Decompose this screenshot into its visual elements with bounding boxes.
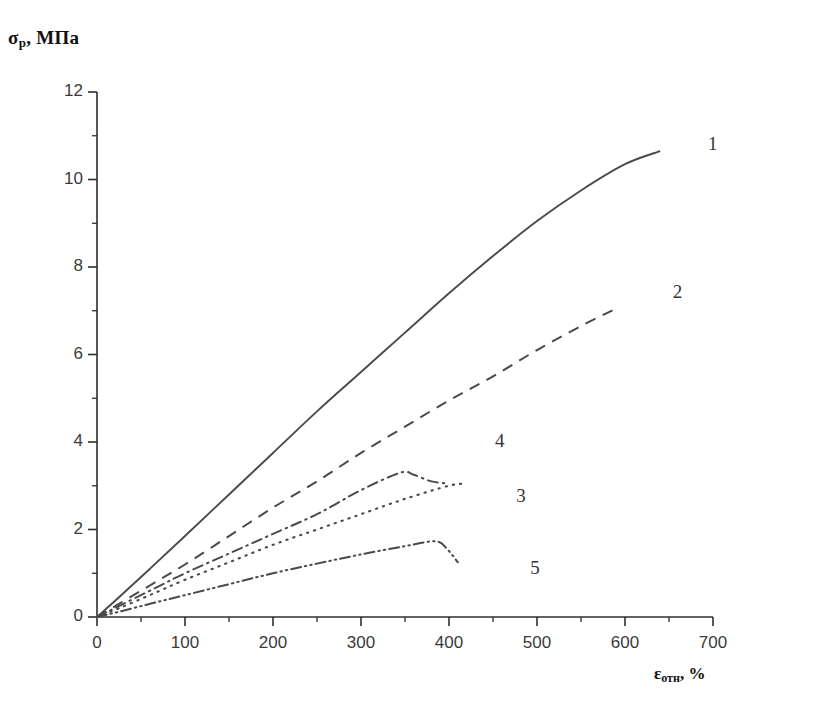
y-tick-label: 2	[33, 519, 83, 539]
series-label-5: 5	[530, 557, 540, 579]
plot-area	[0, 0, 815, 716]
x-tick-label: 700	[683, 633, 743, 653]
y-tick-label: 6	[33, 344, 83, 364]
series-curve-3	[97, 484, 467, 617]
x-tick-label: 200	[243, 633, 303, 653]
x-tick-label: 400	[419, 633, 479, 653]
series-label-4: 4	[495, 430, 505, 452]
y-tick-label: 0	[33, 606, 83, 626]
x-tick-label: 100	[155, 633, 215, 653]
chart-figure: σp, МПа εотн, % 010020030040050060070002…	[0, 0, 815, 716]
series-label-1: 1	[708, 133, 718, 155]
series-label-3: 3	[516, 485, 526, 507]
x-tick-label: 0	[67, 633, 127, 653]
x-tick-label: 300	[331, 633, 391, 653]
y-tick-label: 12	[33, 81, 83, 101]
series-label-2: 2	[673, 281, 683, 303]
x-tick-label: 500	[507, 633, 567, 653]
y-tick-label: 10	[33, 169, 83, 189]
series-curve-1	[97, 151, 660, 617]
y-tick-label: 4	[33, 431, 83, 451]
series-curve-5	[97, 541, 458, 617]
x-tick-label: 600	[595, 633, 655, 653]
y-tick-label: 8	[33, 256, 83, 276]
